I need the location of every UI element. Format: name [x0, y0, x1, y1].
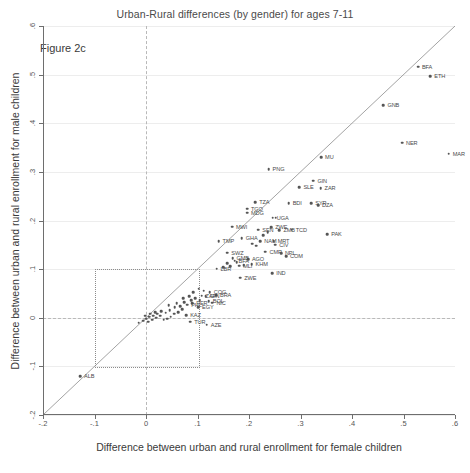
plot-inner: ETHBFAGNBMARNERMUGINSLEZARPNGTZABDISYRDZ… [43, 26, 455, 415]
data-point [205, 323, 208, 326]
data-point [229, 265, 232, 268]
data-point [246, 208, 249, 211]
data-point [326, 233, 329, 236]
data-point [222, 266, 225, 269]
chart-figure: Urban-Rural differences (by gender) for … [0, 0, 470, 473]
x-tick-label: .5 [400, 419, 406, 428]
data-point [169, 315, 172, 318]
data-point-label: EGY [202, 304, 214, 310]
data-point [159, 315, 162, 318]
data-point [257, 228, 260, 231]
data-point [148, 315, 151, 318]
data-point [183, 301, 186, 304]
y-tick [39, 318, 43, 319]
y-tick [39, 366, 43, 367]
data-point [198, 299, 201, 302]
data-point [272, 240, 275, 243]
data-point [152, 315, 155, 318]
data-point-label: CIV [279, 242, 288, 248]
data-point [137, 321, 140, 324]
x-tick-label: .1 [194, 419, 200, 428]
data-point-label: TZA [259, 199, 269, 205]
y-tick [39, 221, 43, 222]
data-point [271, 272, 274, 275]
data-point [259, 240, 262, 243]
data-point [149, 313, 152, 316]
data-point-label: ZAR [325, 185, 336, 191]
data-point [226, 251, 229, 254]
data-point [200, 295, 203, 298]
data-point [160, 310, 163, 313]
y-tick [39, 172, 43, 173]
x-tick-label: .4 [349, 419, 355, 428]
data-point [197, 287, 200, 290]
data-point [262, 234, 265, 237]
data-point-label: ZMB [283, 227, 295, 233]
data-point [274, 216, 277, 219]
data-point-label: TCD [296, 227, 307, 233]
data-point [154, 311, 157, 314]
grid-line [43, 123, 455, 124]
data-point [319, 187, 322, 190]
data-point-label: ZWE [244, 275, 256, 281]
y-tick-label: .1 [28, 266, 37, 272]
data-point [310, 202, 313, 205]
data-point [151, 318, 154, 321]
data-point [177, 311, 180, 314]
data-point-label: AZE [211, 322, 222, 328]
data-point-label: MWI [236, 224, 247, 230]
data-point-label: GIN [317, 178, 327, 184]
x-tick-label: .2 [246, 419, 252, 428]
data-point [166, 317, 169, 320]
data-point-label: NIC [216, 300, 225, 306]
data-point [401, 141, 404, 144]
data-point [145, 317, 148, 320]
data-point [448, 153, 451, 156]
data-point [238, 264, 241, 267]
y-tick [39, 75, 43, 76]
data-point [185, 314, 188, 317]
y-tick-label: .2 [28, 217, 37, 223]
grid-line [43, 172, 455, 173]
data-point [194, 297, 197, 300]
data-point [173, 313, 176, 316]
data-point [168, 309, 171, 312]
data-point-label: ALB [84, 373, 94, 379]
grid-line [43, 75, 455, 76]
data-point [155, 316, 158, 319]
data-point [204, 295, 207, 298]
data-point [382, 104, 385, 107]
data-point [317, 204, 320, 207]
y-axis-line [43, 26, 44, 415]
data-point [144, 315, 147, 318]
data-point [162, 318, 165, 321]
data-point [280, 252, 283, 255]
data-point [231, 226, 234, 229]
data-point-label: GHA [246, 235, 258, 241]
data-point [235, 261, 238, 264]
data-point [274, 244, 277, 247]
data-point-label: UGA [277, 215, 289, 221]
data-point [298, 186, 301, 189]
grid-line [43, 26, 455, 27]
y-tick-label: -.1 [28, 362, 37, 371]
data-point [142, 319, 145, 322]
data-point [215, 267, 218, 270]
data-point-label: TMP [223, 238, 235, 244]
data-point [278, 229, 281, 232]
data-point [267, 168, 270, 171]
data-point [266, 231, 269, 234]
data-point [429, 75, 432, 78]
data-point-label: MDG [251, 210, 264, 216]
data-point-label: ETH [434, 73, 445, 79]
data-point [190, 299, 193, 302]
data-point [192, 291, 195, 294]
data-point [179, 305, 182, 308]
data-point [255, 244, 258, 247]
data-point-label: PAK [331, 231, 341, 237]
data-point-label: TUR [194, 319, 205, 325]
data-point [312, 179, 315, 182]
data-point-label: SLE [303, 184, 313, 190]
y-tick-label: -.2 [28, 411, 37, 420]
data-point-label: NER [406, 140, 418, 146]
